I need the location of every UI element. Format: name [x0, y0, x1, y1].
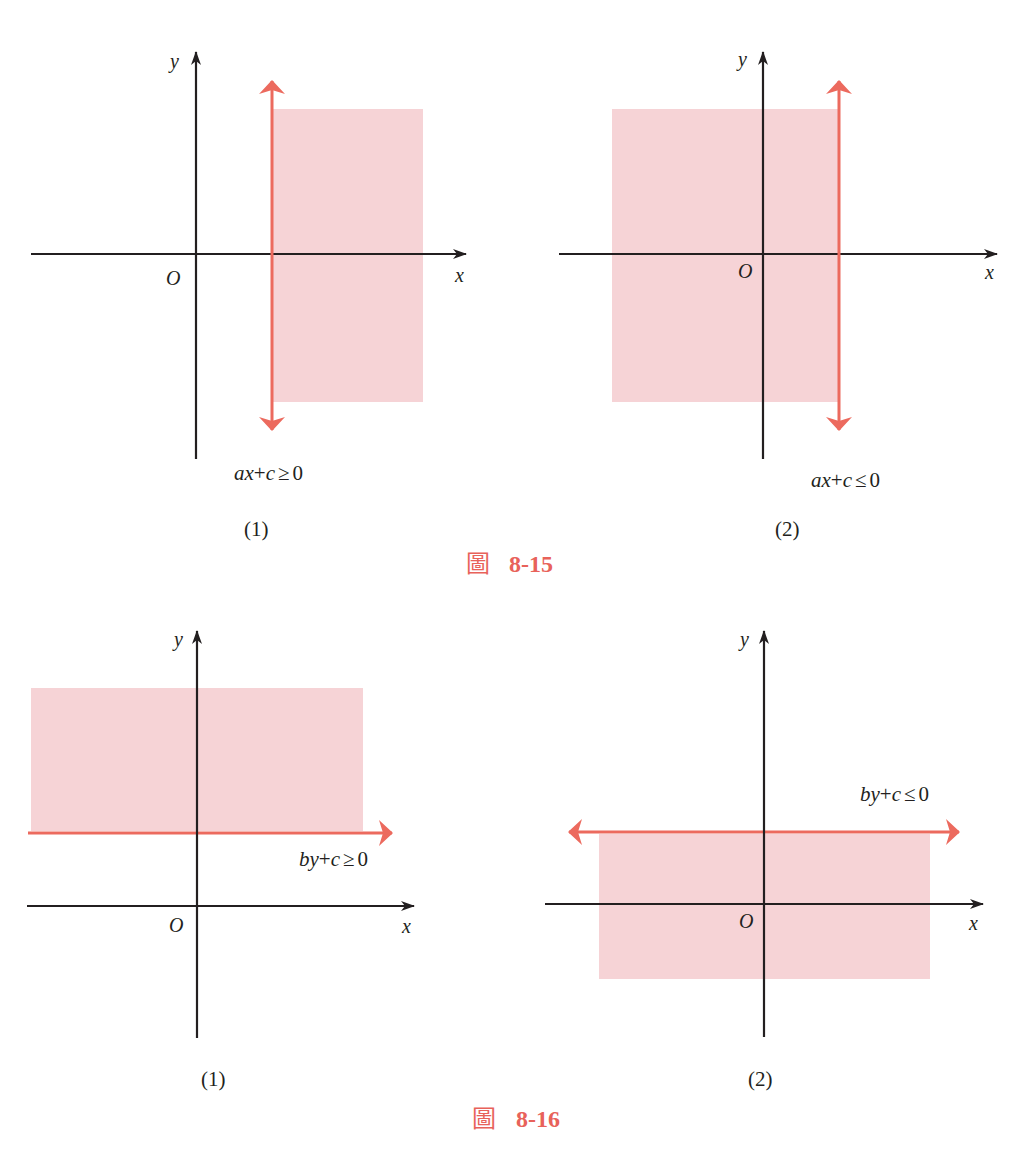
y-axis-label: y: [736, 48, 747, 71]
figure-8-16-panel-2: y x O by+c≤0 (2): [545, 628, 983, 1091]
caption-char: 圖: [472, 1106, 496, 1132]
x-axis-label: x: [401, 915, 411, 937]
origin-label: O: [738, 260, 752, 282]
figure-8-16-caption: 圖 8-16: [472, 1106, 560, 1132]
inequality-label: ax+c≥0: [234, 461, 303, 485]
origin-label: O: [739, 910, 753, 932]
x-axis-label: x: [454, 264, 464, 286]
diagram-canvas: y x O ax+c≥0 (1) y x O ax+c≤0 (2) 圖 8-15…: [0, 0, 1017, 1161]
caption-number: 8-15: [509, 551, 553, 577]
x-axis-label: x: [984, 261, 994, 283]
inequality-label: ax+c≤0: [811, 468, 880, 492]
figure-8-15-panel-1: y x O ax+c≥0 (1): [31, 50, 466, 541]
y-axis-label: y: [168, 50, 179, 73]
panel-label: (1): [244, 517, 269, 541]
inequality-label: by+c≥0: [299, 847, 368, 871]
shaded-region: [612, 109, 838, 402]
caption-char: 圖: [466, 551, 490, 577]
figure-8-15-panel-2: y x O ax+c≤0 (2): [559, 48, 997, 541]
panel-label: (2): [775, 517, 800, 541]
inequality-label: by+c≤0: [860, 782, 929, 806]
figure-8-16-panel-1: y x O by+c≥0 (1): [27, 628, 414, 1091]
panel-label: (1): [201, 1067, 226, 1091]
x-axis-label: x: [968, 912, 978, 934]
y-axis-label: y: [172, 628, 183, 651]
origin-label: O: [166, 267, 180, 289]
figure-8-15-caption: 圖 8-15: [466, 551, 553, 577]
origin-label: O: [169, 914, 183, 936]
shaded-region: [273, 109, 423, 402]
caption-number: 8-16: [516, 1106, 560, 1132]
panel-label: (2): [748, 1067, 773, 1091]
y-axis-label: y: [738, 628, 749, 651]
